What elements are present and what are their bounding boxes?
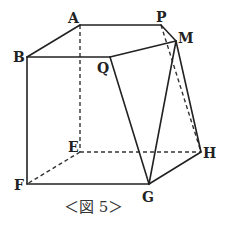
edge-GH: [149, 152, 201, 184]
vertex-label-Q: Q: [97, 60, 109, 76]
vertex-label-H: H: [203, 145, 216, 161]
vertex-label-M: M: [178, 30, 194, 46]
solid-figure-diagram: A P M B Q E F G H ＜図 5＞: [0, 0, 230, 226]
edge-QM: [110, 41, 176, 57]
edge-AB: [27, 25, 80, 57]
edge-EF: [27, 152, 80, 184]
edge-MG: [149, 41, 176, 184]
vertex-label-G: G: [142, 189, 154, 205]
edge-QG: [110, 57, 149, 184]
vertex-label-P: P: [156, 9, 167, 25]
vertex-label-B: B: [13, 49, 25, 65]
vertex-label-E: E: [68, 139, 79, 155]
vertex-label-A: A: [67, 10, 80, 26]
vertex-label-F: F: [14, 177, 24, 193]
figure-caption: ＜図 5＞: [64, 198, 123, 216]
edge-MH: [176, 41, 201, 152]
